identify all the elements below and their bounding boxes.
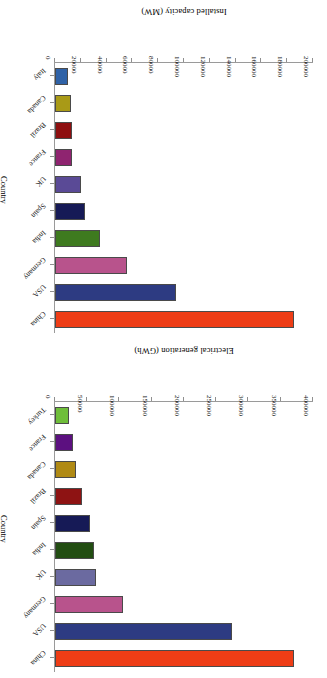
capacity-value-axis-line	[54, 62, 313, 63]
generation-plot-area: 0500001000001500002000002500003000003500…	[0, 339, 327, 678]
generation-category-label-usa: USA	[31, 622, 48, 639]
capacity-category-label-italy: Italy	[32, 67, 48, 83]
bar-capacity-canada	[55, 95, 71, 112]
generation-category-tick	[50, 577, 54, 578]
capacity-value-tick	[157, 58, 158, 62]
capacity-value-tick	[106, 58, 107, 62]
generation-category-axis-title: Country	[0, 515, 9, 543]
generation-value-tick-label: 0	[44, 395, 52, 399]
capacity-value-tick-label: 100000	[173, 56, 181, 77]
generation-category-tick	[50, 523, 54, 524]
capacity-plot-area: 0200004000060000800001000001200001400001…	[0, 0, 327, 339]
bar-generation-uk	[55, 569, 96, 586]
generation-category-label-brazil: Brazil	[29, 487, 48, 506]
generation-category-label-uk: UK	[34, 568, 48, 582]
capacity-value-tick	[80, 58, 81, 62]
capacity-category-label-usa: USA	[31, 283, 48, 300]
capacity-value-tick-label: 40000	[96, 56, 104, 74]
generation-plot-wrap: 0500001000001500002000002500003000003500…	[0, 339, 327, 678]
bar-generation-canada	[55, 461, 76, 478]
capacity-category-label-china: China	[29, 310, 48, 329]
capacity-value-tick	[312, 58, 313, 62]
bar-capacity-brazil	[55, 122, 72, 139]
generation-value-tick-label: 150000	[141, 395, 149, 416]
generation-category-tick	[50, 496, 54, 497]
bar-capacity-germany	[55, 257, 127, 274]
capacity-category-tick	[50, 103, 54, 104]
capacity-value-tick-label: 120000	[199, 56, 207, 77]
generation-category-tick	[50, 442, 54, 443]
capacity-category-label-france: France	[27, 148, 48, 169]
generation-value-tick	[312, 397, 313, 401]
generation-category-tick	[50, 631, 54, 632]
generation-value-tick-label: 50000	[76, 395, 84, 413]
capacity-value-tick-label: 0	[44, 56, 52, 60]
generation-category-tick	[50, 658, 54, 659]
generation-category-label-germany: Germany	[22, 595, 48, 621]
capacity-category-label-india: India	[31, 229, 48, 246]
bar-generation-turkey	[55, 407, 69, 424]
generation-value-tick-label: 300000	[238, 395, 246, 416]
generation-category-tick	[50, 550, 54, 551]
capacity-category-label-canada: Canada	[26, 94, 48, 116]
generation-value-tick-label: 350000	[270, 395, 278, 416]
capacity-category-tick	[50, 292, 54, 293]
capacity-value-tick-label: 200000	[302, 56, 310, 77]
generation-value-tick	[280, 397, 281, 401]
generation-category-tick	[50, 604, 54, 605]
capacity-category-tick	[50, 238, 54, 239]
capacity-value-tick	[183, 58, 184, 62]
capacity-value-tick-label: 80000	[147, 56, 155, 74]
generation-value-tick	[151, 397, 152, 401]
capacity-value-tick	[54, 58, 55, 62]
chart-installed-capacity: 0200004000060000800001000001200001400001…	[0, 0, 327, 339]
chart-electrical-generation: 0500001000001500002000002500003000003500…	[0, 339, 327, 678]
capacity-value-tick	[131, 58, 132, 62]
generation-value-tick	[215, 397, 216, 401]
capacity-value-tick-label: 60000	[121, 56, 129, 74]
generation-value-tick-label: 250000	[205, 395, 213, 416]
bar-capacity-uk	[55, 176, 81, 193]
generation-value-tick-label: 400000	[302, 395, 310, 416]
capacity-value-tick	[260, 58, 261, 62]
bar-capacity-usa	[55, 284, 176, 301]
capacity-value-tick-label: 20000	[70, 56, 78, 74]
capacity-category-tick	[50, 211, 54, 212]
generation-category-tick	[50, 415, 54, 416]
bar-capacity-italy	[55, 68, 68, 85]
capacity-plot-wrap: 0200004000060000800001000001200001400001…	[0, 0, 327, 339]
bar-capacity-china	[55, 311, 294, 328]
generation-category-label-china: China	[29, 649, 48, 668]
generation-category-label-france: France	[27, 433, 48, 454]
generation-value-tick-label: 100000	[109, 395, 117, 416]
generation-category-label-turkey: Turkey	[26, 406, 48, 428]
capacity-category-label-spain: Spain	[30, 202, 48, 220]
capacity-category-tick	[50, 157, 54, 158]
capacity-value-axis-title: Installed capacity (MW)	[55, 7, 313, 17]
capacity-category-label-brazil: Brazil	[29, 121, 48, 140]
bar-generation-india	[55, 542, 94, 559]
capacity-category-label-uk: UK	[34, 175, 48, 189]
generation-value-tick	[183, 397, 184, 401]
generation-value-tick-label: 200000	[173, 395, 181, 416]
capacity-value-tick	[235, 58, 236, 62]
generation-category-label-spain: Spain	[30, 514, 48, 532]
generation-value-tick	[86, 397, 87, 401]
capacity-category-axis-title: Country	[0, 176, 9, 204]
capacity-category-tick	[50, 265, 54, 266]
bar-generation-germany	[55, 596, 123, 613]
generation-value-tick	[119, 397, 120, 401]
bar-generation-spain	[55, 515, 90, 532]
generation-category-tick	[50, 469, 54, 470]
capacity-value-tick	[209, 58, 210, 62]
bar-capacity-france	[55, 149, 72, 166]
generation-value-tick	[248, 397, 249, 401]
capacity-value-tick-label: 180000	[276, 56, 284, 77]
bar-generation-france	[55, 434, 73, 451]
capacity-value-tick-label: 160000	[250, 56, 258, 77]
bar-capacity-spain	[55, 203, 85, 220]
capacity-category-label-germany: Germany	[22, 256, 48, 282]
generation-category-label-india: India	[31, 541, 48, 558]
capacity-category-tick	[50, 184, 54, 185]
generation-category-label-canada: Canada	[26, 460, 48, 482]
